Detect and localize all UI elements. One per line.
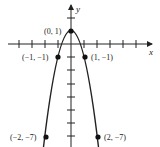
label-vertex: (0, 1) [44,27,62,36]
point-neg2 [43,134,48,139]
y-axis-label: y [75,4,80,14]
label-neg1: (−1, −1) [22,53,49,62]
parabola-graph: y x (0, 1) (−1, −1) (1, −1) (−2, −7) (2,… [0,0,160,147]
point-pos2 [95,134,100,139]
point-vertex [68,28,73,33]
point-neg1 [55,54,60,59]
point-pos1 [82,54,87,59]
label-pos2: (2, −7) [104,133,126,142]
label-pos1: (1, −1) [91,53,113,62]
label-neg2: (−2, −7) [10,133,37,142]
x-axis-label: x [148,47,153,57]
